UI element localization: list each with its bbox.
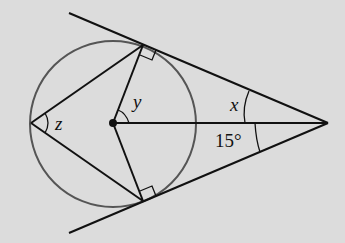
label-x: x	[229, 94, 239, 115]
label-15-degrees: 15°	[215, 130, 242, 151]
chord-top	[31, 45, 143, 123]
angle-arc-x	[244, 91, 249, 123]
label-y: y	[131, 91, 142, 112]
radius-bottom	[113, 123, 143, 201]
center-point	[109, 119, 117, 127]
geometry-diagram: x y z 15°	[0, 0, 345, 243]
diagram-canvas: x y z 15°	[0, 0, 345, 243]
angle-arc-15	[255, 123, 260, 152]
angle-arc-z	[45, 113, 48, 133]
right-angle-marker-bottom	[140, 186, 156, 196]
angle-arc-y	[118, 110, 129, 123]
tangent-line-bottom	[69, 123, 328, 233]
label-z: z	[54, 113, 63, 134]
chord-bottom	[31, 123, 143, 201]
tangent-line-top	[69, 13, 328, 123]
